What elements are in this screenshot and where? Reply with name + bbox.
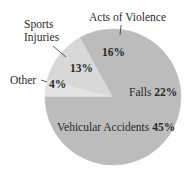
pie-chart: Acts of Violence 16% Sports Injuries 13%… bbox=[0, 0, 190, 175]
falls-label-text: Falls bbox=[129, 86, 154, 98]
sports-label-line2: Injuries bbox=[24, 31, 60, 44]
falls-label: Falls 22% bbox=[129, 86, 177, 98]
sports-label-line1: Sports bbox=[24, 18, 54, 31]
vehicular-label-text: Vehicular Accidents bbox=[57, 121, 152, 133]
vehicular-label: Vehicular Accidents 45% bbox=[57, 121, 175, 133]
violence-label: Acts of Violence bbox=[89, 11, 166, 23]
falls-pct: 22% bbox=[154, 86, 177, 98]
violence-pct: 16% bbox=[102, 46, 125, 58]
sports-pct: 13% bbox=[70, 62, 93, 74]
other-label: Other bbox=[10, 74, 36, 86]
other-pct: 4% bbox=[49, 78, 66, 90]
other-leader-line bbox=[41, 80, 47, 82]
vehicular-pct: 45% bbox=[152, 121, 175, 133]
